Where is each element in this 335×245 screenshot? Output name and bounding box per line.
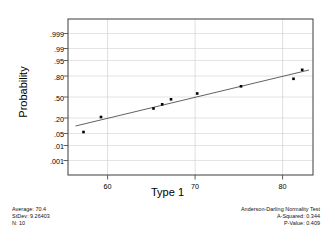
stat-a-squared: A-Squared: 0.344 <box>228 213 320 220</box>
anderson-darling-results: Anderson-Darling Normality Test A-Square… <box>228 206 320 228</box>
stat-average: Average: 70.4 <box>12 206 50 213</box>
stat-stdev: StDev: 9.26403 <box>12 213 50 220</box>
y-axis-title: Probability <box>17 47 29 137</box>
test-title: Anderson-Darling Normality Test <box>228 206 320 213</box>
descriptive-statistics: Average: 70.4 StDev: 9.26403 N: 10 <box>12 206 50 228</box>
x-axis-title: Type 1 <box>0 186 335 198</box>
stat-n: N: 10 <box>12 220 50 227</box>
stat-p-value: P-Value: 0.409 <box>228 220 320 227</box>
probability-plot: .999 .99 .95 .80 .50 .20 .05 .01 .001 60… <box>0 0 335 245</box>
